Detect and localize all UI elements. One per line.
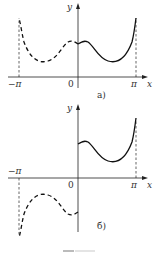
neg-pi-label-a: −π	[8, 79, 23, 89]
caption-a: a)	[97, 90, 106, 100]
zero-label-b: 0	[68, 180, 74, 190]
curve-dashed-a	[19, 18, 78, 62]
neg-pi-label-b: −π	[8, 166, 23, 176]
graph-a: y x −π 0 π a)	[8, 2, 152, 100]
curve-solid-a	[78, 18, 136, 62]
graph-b: y x −π 0 π б)	[8, 103, 152, 238]
caption-b: б)	[97, 221, 106, 231]
y-label-b: y	[66, 103, 73, 113]
cutoff-fragment	[63, 250, 74, 252]
y-label-a: y	[66, 2, 73, 12]
zero-label-a: 0	[68, 79, 74, 89]
cutoff-fragment	[75, 250, 95, 252]
pi-label-b: π	[130, 180, 138, 190]
y-arrow-icon	[76, 104, 80, 110]
x-label-b: x	[147, 180, 152, 190]
pi-label-a: π	[130, 79, 138, 89]
curve-dashed-b	[19, 194, 78, 238]
curve-solid-b	[78, 118, 136, 162]
y-arrow-icon	[76, 3, 80, 9]
figure-canvas: y x −π 0 π a) y x −π 0 π б)	[0, 0, 160, 259]
x-label-a: x	[147, 79, 152, 89]
